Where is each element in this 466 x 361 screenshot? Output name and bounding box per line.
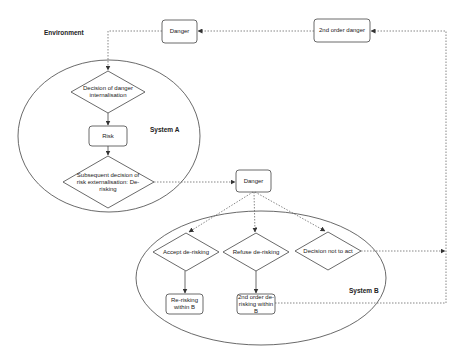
- diagram-canvas: [0, 0, 466, 361]
- environment-label: Environment: [44, 28, 104, 37]
- accept-text: Accept de-risking: [156, 247, 216, 257]
- edge-danger-to-accept: [189, 192, 253, 232]
- danger-top-text: Danger: [162, 20, 197, 43]
- risk-text: Risk: [89, 126, 127, 146]
- edge-danger-to-internalisation: [108, 31, 162, 70]
- subsequent-decision-text: Subsequent decision of risk externalisat…: [76, 171, 140, 193]
- system-b-label: System B: [349, 286, 399, 295]
- second-order-danger-text: 2nd order danger: [314, 19, 370, 42]
- re-risking-text: Re-risking within B: [168, 294, 201, 314]
- decision-internalisation-text: Decision of danger internalisation: [78, 84, 138, 100]
- edge-danger-to-refuse: [254, 192, 255, 232]
- not-act-text: Decision not to act: [298, 246, 358, 256]
- system-b-ellipse: [136, 211, 386, 345]
- second-order-derisking-text: 2nd order de-risking within B: [237, 293, 275, 315]
- refuse-text: Refuse de-risking: [226, 247, 286, 257]
- edge-derisking-to-2nd-danger: [275, 31, 446, 303]
- system-a-label: System A: [150, 125, 200, 134]
- edge-danger-to-not-act: [255, 192, 325, 231]
- danger-mid-text: Danger: [236, 170, 271, 192]
